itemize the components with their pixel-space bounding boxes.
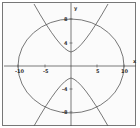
y-tick-pos4: 4 (64, 40, 68, 46)
y-tick-neg8: -8 (62, 109, 68, 115)
y-tick-pos8: 8 (64, 16, 68, 22)
x-tick-neg10: -10 (15, 68, 25, 74)
plot-area: -10 -5 5 10 8 4 -4 -8 x y (0, 0, 140, 128)
y-tick-neg4: -4 (62, 86, 68, 92)
x-tick-pos10: 10 (121, 68, 128, 74)
y-axis-label: y (74, 5, 78, 12)
x-axis-label: x (133, 58, 137, 64)
x-tick-neg5: -5 (43, 68, 49, 74)
x-tick-pos5: 5 (96, 68, 100, 74)
